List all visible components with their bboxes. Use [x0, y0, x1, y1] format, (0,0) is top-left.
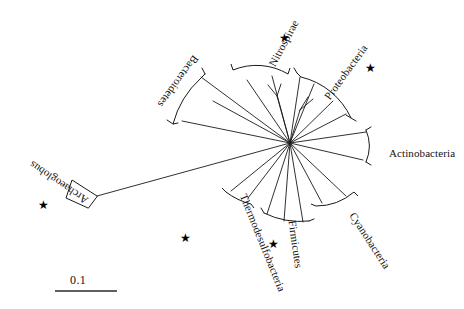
- clade-cyanobacteria: [290, 143, 358, 206]
- scale-bar-label: 0.1: [70, 273, 86, 288]
- clade-firmicutes: [261, 143, 314, 222]
- clade-archaeoglobus: [66, 143, 290, 208]
- star-marker-thermodesulfobacteria: ★: [180, 232, 191, 244]
- star-marker-proteobacteria: ★: [365, 62, 376, 74]
- clade-nitrospirae: [231, 64, 290, 143]
- star-marker-nitrospirae: ★: [279, 32, 290, 44]
- clade-actinobacteria: [290, 127, 371, 165]
- taxon-label-actinobacteria: Actinobacteria: [389, 148, 455, 159]
- star-marker-archaeoglobus: ★: [38, 199, 49, 211]
- phylogenetic-tree-figure: Bacteroidetes Nitrospirae ★ Proteobacter…: [0, 0, 464, 309]
